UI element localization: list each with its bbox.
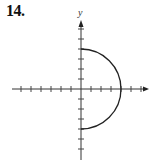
y-axis bbox=[78, 20, 84, 160]
y-axis-arrowhead bbox=[79, 20, 84, 27]
coordinate-plot: y bbox=[0, 0, 152, 165]
x-axis-arrowhead bbox=[143, 87, 149, 92]
y-axis-label: y bbox=[77, 7, 83, 18]
